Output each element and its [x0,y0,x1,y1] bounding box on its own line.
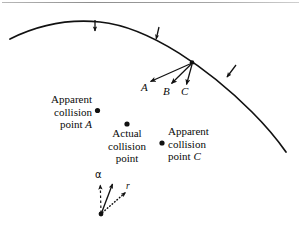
apparent-a-line-1: Apparent [20,93,92,106]
apparent-c-line-2: collision [168,138,244,151]
vector-label-a: A [141,81,148,93]
actual-collision-point-dot [124,121,129,126]
apparent-a-line-3: point A [20,118,92,131]
actual-collision-point-label: Actual collision point [101,127,153,165]
alpha-dashed-arrow [100,185,101,213]
actual-line-3: point [101,152,153,165]
apparent-a-line-3-italic: A [85,118,92,130]
vector-label-b: B [163,85,170,97]
apparent-a-line-2: collision [20,106,92,119]
arc-normal-arrow-2 [156,27,159,39]
alpha-label: α [95,169,102,180]
arc-normal-arrow-3 [227,65,236,77]
vector-arrow-a [151,64,192,82]
apparent-c-line-1: Apparent [168,125,244,138]
apparent-c-line-3-prefix: point [168,150,193,162]
r-label: r [126,181,130,191]
actual-line-1: Actual [101,127,153,140]
apparent-collision-point-c-label: Apparent collision point C [168,125,244,163]
apparent-collision-point-a-dot [95,108,100,113]
apparent-c-line-3: point C [168,150,244,163]
apparent-collision-point-c-dot [159,140,164,145]
apparent-a-line-3-prefix: point [60,118,85,130]
actual-line-2: collision [101,140,153,153]
apparent-c-line-3-italic: C [193,150,200,162]
apparent-collision-point-a-label: Apparent collision point A [20,93,92,131]
vector-label-c: C [181,85,188,97]
vector-arrow-b [172,64,192,84]
